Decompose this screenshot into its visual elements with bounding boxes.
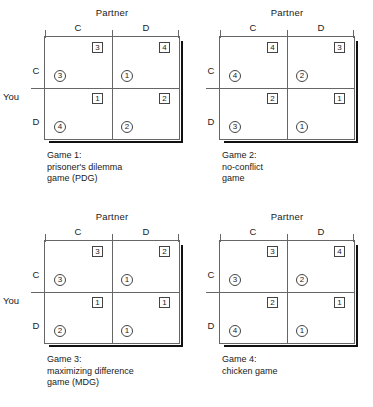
cell-cc: 3 3 [220, 241, 287, 292]
cell-cc: 4 4 [220, 37, 287, 88]
your-payoff: 4 [54, 121, 66, 133]
cell-dc: 2 4 [220, 292, 287, 343]
cell-dd: 1 1 [287, 88, 354, 139]
your-payoff: 4 [229, 70, 241, 82]
your-payoff: 1 [121, 325, 133, 337]
row-header-d: D [30, 116, 42, 127]
horizontal-divider-extension [31, 292, 46, 293]
row-header-d: D [30, 320, 42, 331]
your-payoff: 2 [296, 274, 308, 286]
partner-payoff: 3 [92, 246, 103, 257]
your-payoff: 4 [229, 325, 241, 337]
partner-payoff: 1 [92, 93, 103, 104]
game-caption: Game 1: prisoner's dilemma game (PDG) [47, 150, 122, 185]
payoff-matrix: 3 3 4 2 2 4 1 1 [219, 240, 355, 344]
matrix-shadow-right [181, 41, 184, 143]
game-panel-4: Partner C D C D 3 3 4 2 2 4 [187, 204, 373, 407]
matrix-shadow-bottom [49, 141, 183, 144]
partner-payoff: 3 [92, 42, 103, 53]
row-header-d: D [205, 116, 217, 127]
partner-payoff: 1 [92, 297, 103, 308]
cell-cd: 3 2 [287, 37, 354, 88]
your-payoff: 2 [296, 70, 308, 82]
partner-payoff: 2 [159, 246, 170, 257]
column-header-c: C [44, 22, 112, 33]
row-header-c: C [205, 65, 217, 76]
horizontal-divider-extension [206, 292, 221, 293]
cell-dc: 2 3 [220, 88, 287, 139]
your-payoff: 3 [229, 274, 241, 286]
payoff-matrix: 3 3 2 1 1 2 1 1 [44, 240, 180, 344]
cell-dc: 1 4 [45, 88, 112, 139]
your-payoff: 1 [121, 274, 133, 286]
partner-payoff: 2 [267, 297, 278, 308]
partner-payoff: 1 [334, 93, 345, 104]
game-panel-1: Partner C D You C D 3 3 4 1 1 [0, 0, 186, 203]
partner-axis-label: Partner [219, 211, 355, 222]
payoff-matrix: 3 3 4 1 1 4 2 2 [44, 36, 180, 140]
column-header-d: D [287, 22, 355, 33]
game-caption: Game 2: no-conflict game [222, 150, 263, 185]
partner-payoff: 4 [334, 246, 345, 257]
matrix-shadow-bottom [49, 345, 183, 348]
column-header-d: D [112, 226, 180, 237]
game-panel-2: Partner C D C D 4 4 3 2 2 3 [187, 0, 373, 203]
games-figure: Partner C D You C D 3 3 4 1 1 [0, 0, 373, 407]
cell-dd: 1 1 [287, 292, 354, 343]
partner-axis-label: Partner [44, 7, 180, 18]
game-panel-3: Partner C D You C D 3 3 2 1 1 [0, 204, 186, 407]
row-header-d: D [205, 320, 217, 331]
horizontal-divider-extension [206, 88, 221, 89]
cell-cd: 4 2 [287, 241, 354, 292]
cell-cc: 3 3 [45, 37, 112, 88]
your-payoff: 1 [121, 70, 133, 82]
your-payoff: 1 [296, 121, 308, 133]
column-header-c: C [219, 22, 287, 33]
row-header-c: C [205, 269, 217, 280]
your-payoff: 3 [54, 274, 66, 286]
cell-dd: 2 2 [112, 88, 179, 139]
cell-dc: 1 2 [45, 292, 112, 343]
your-payoff: 2 [54, 325, 66, 337]
matrix-shadow-bottom [224, 141, 358, 144]
partner-axis-label: Partner [44, 211, 180, 222]
your-payoff: 2 [121, 121, 133, 133]
matrix-shadow-bottom [224, 345, 358, 348]
partner-payoff: 1 [334, 297, 345, 308]
you-axis-label: You [3, 295, 19, 306]
you-axis-label: You [3, 91, 19, 102]
cell-dd: 1 1 [112, 292, 179, 343]
partner-payoff: 3 [334, 42, 345, 53]
matrix-shadow-right [356, 41, 359, 143]
game-caption: Game 3: maximizing difference game (MDG) [47, 354, 134, 389]
matrix-shadow-right [181, 245, 184, 347]
partner-payoff: 2 [159, 93, 170, 104]
partner-payoff: 4 [267, 42, 278, 53]
partner-axis-label: Partner [219, 7, 355, 18]
row-header-c: C [30, 65, 42, 76]
your-payoff: 3 [54, 70, 66, 82]
your-payoff: 1 [296, 325, 308, 337]
column-header-c: C [44, 226, 112, 237]
partner-payoff: 2 [267, 93, 278, 104]
matrix-shadow-right [356, 245, 359, 347]
partner-payoff: 3 [267, 246, 278, 257]
cell-cd: 2 1 [112, 241, 179, 292]
cell-cc: 3 3 [45, 241, 112, 292]
column-header-d: D [287, 226, 355, 237]
cell-cd: 4 1 [112, 37, 179, 88]
column-header-d: D [112, 22, 180, 33]
partner-payoff: 4 [159, 42, 170, 53]
column-header-c: C [219, 226, 287, 237]
your-payoff: 3 [229, 121, 241, 133]
payoff-matrix: 4 4 3 2 2 3 1 1 [219, 36, 355, 140]
row-header-c: C [30, 269, 42, 280]
partner-payoff: 1 [159, 297, 170, 308]
horizontal-divider-extension [31, 88, 46, 89]
game-caption: Game 4: chicken game [222, 354, 278, 377]
